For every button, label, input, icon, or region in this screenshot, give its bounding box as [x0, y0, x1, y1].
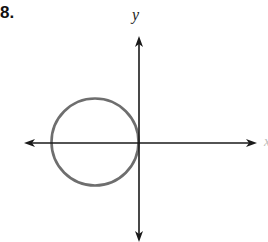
y-axis [135, 36, 143, 242]
x-axis [24, 139, 257, 147]
coordinate-graph [0, 0, 268, 242]
circle-curve [52, 99, 139, 186]
